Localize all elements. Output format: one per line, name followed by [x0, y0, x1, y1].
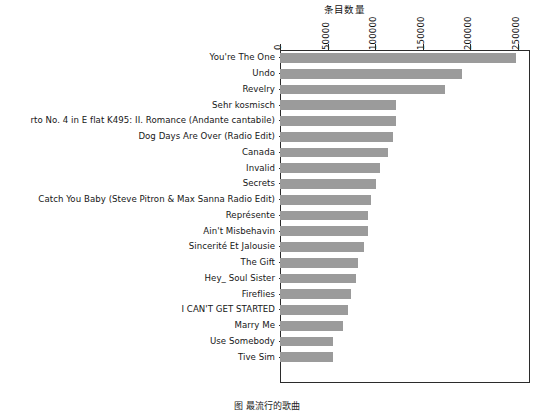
figure-caption: 图 最流行的歌曲: [0, 399, 534, 412]
bar-row: Tive Sim: [0, 352, 534, 362]
bar: [280, 289, 351, 299]
bar-row: Secrets: [0, 179, 534, 189]
category-label: Invalid: [0, 164, 279, 173]
category-label: Catch You Baby (Steve Pitron & Max Sanna…: [0, 195, 279, 204]
x-tick-label: 100000: [368, 16, 378, 50]
category-label: Marry Me: [0, 321, 279, 330]
bar-row: Représente: [0, 211, 534, 221]
bar: [280, 321, 343, 331]
category-label: Tive Sim: [0, 353, 279, 362]
x-tick-mark: [328, 44, 329, 50]
bar-row: Invalid: [0, 163, 534, 173]
bar: [280, 132, 393, 142]
bar-rows: You're The OneUndoRevelrySehr kosmischrt…: [0, 50, 534, 383]
bar-row: Fireflies: [0, 289, 534, 299]
bar: [280, 226, 368, 236]
category-label: You're The One: [0, 53, 279, 62]
x-tick-mark: [375, 44, 376, 50]
bar: [280, 305, 348, 315]
bar: [280, 69, 462, 79]
category-label: Revelry: [0, 85, 279, 94]
x-tick-mark: [280, 44, 281, 50]
bar: [280, 148, 388, 158]
bar-row: Catch You Baby (Steve Pitron & Max Sanna…: [0, 195, 534, 205]
bar-row: Sehr kosmisch: [0, 100, 534, 110]
category-label: Fireflies: [0, 290, 279, 299]
category-label: Canada: [0, 148, 279, 157]
x-tick-label: 50000: [321, 22, 331, 50]
category-label: Dog Days Are Over (Radio Edit): [0, 132, 279, 141]
bar-row: Dog Days Are Over (Radio Edit): [0, 132, 534, 142]
category-label: Secrets: [0, 179, 279, 188]
x-tick-label: 250000: [511, 16, 521, 50]
category-label: rto No. 4 in E flat K495: II. Romance (A…: [0, 116, 279, 125]
category-label: I CAN'T GET STARTED: [0, 305, 279, 314]
bar-row: The Gift: [0, 258, 534, 268]
x-tick-label: 200000: [463, 16, 473, 50]
bar: [280, 195, 371, 205]
bar-row: Marry Me: [0, 321, 534, 331]
category-label: Sincerité Et Jalousie: [0, 242, 279, 251]
category-label: Sehr kosmisch: [0, 101, 279, 110]
bar: [280, 163, 380, 173]
bar-row: Hey_ Soul Sister: [0, 274, 534, 284]
bar-row: I CAN'T GET STARTED: [0, 305, 534, 315]
bar: [280, 337, 333, 347]
category-label: Undo: [0, 69, 279, 78]
bar: [280, 352, 333, 362]
bar: [280, 85, 445, 95]
bar: [280, 258, 358, 268]
bar-row: rto No. 4 in E flat K495: II. Romance (A…: [0, 116, 534, 126]
bar: [280, 211, 368, 221]
bar: [280, 100, 396, 110]
x-axis-tick-labels: 050000100000150000200000250000: [0, 14, 534, 50]
bar: [280, 242, 364, 252]
category-label: Hey_ Soul Sister: [0, 274, 279, 283]
bar-row: Ain't Misbehavin: [0, 226, 534, 236]
category-label: Représente: [0, 211, 279, 220]
bar-row: Revelry: [0, 85, 534, 95]
category-label: Ain't Misbehavin: [0, 227, 279, 236]
bar-row: Undo: [0, 69, 534, 79]
x-tick-label: 150000: [416, 16, 426, 50]
x-tick-mark: [470, 44, 471, 50]
bar: [280, 116, 396, 126]
x-tick-mark: [518, 44, 519, 50]
x-tick-mark: [423, 44, 424, 50]
bar: [280, 274, 356, 284]
bar: [280, 53, 516, 63]
bar-row: Sincerité Et Jalousie: [0, 242, 534, 252]
bar-row: Canada: [0, 148, 534, 158]
category-label: The Gift: [0, 258, 279, 267]
category-label: Use Somebody: [0, 337, 279, 346]
bar-row: Use Somebody: [0, 337, 534, 347]
bar-row: You're The One: [0, 53, 534, 63]
bar: [280, 179, 376, 189]
